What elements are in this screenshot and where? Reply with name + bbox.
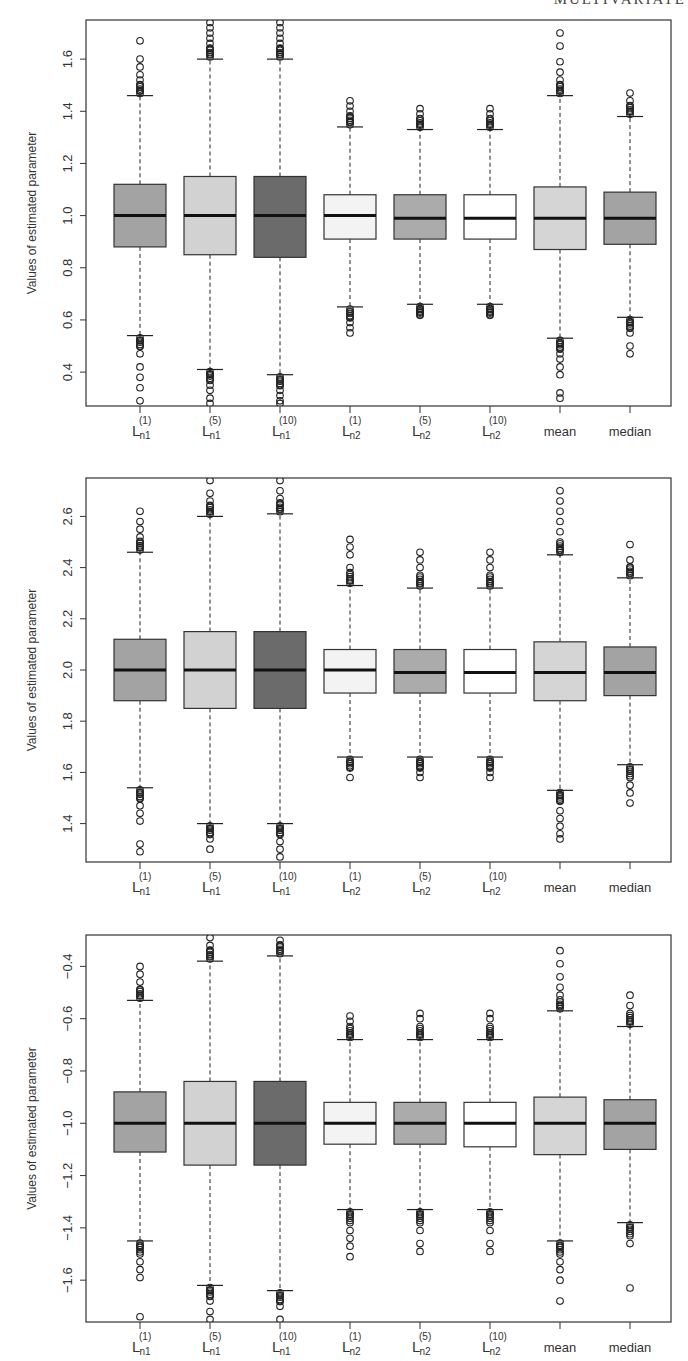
svg-text:(1): (1) bbox=[349, 871, 361, 882]
outlier-point bbox=[207, 846, 214, 853]
y-axis-label: Values of estimated parameter bbox=[25, 1047, 39, 1210]
svg-text:(5): (5) bbox=[419, 871, 431, 882]
outlier-point bbox=[557, 974, 564, 981]
outlier-point bbox=[137, 971, 144, 978]
outlier-point bbox=[137, 841, 144, 848]
outlier-point bbox=[137, 518, 144, 525]
outlier-point bbox=[627, 992, 634, 999]
outlier-point bbox=[137, 963, 144, 970]
outlier-point bbox=[627, 343, 634, 350]
outlier-point bbox=[557, 30, 564, 37]
svg-text:n1: n1 bbox=[140, 430, 152, 441]
outlier-point bbox=[417, 1248, 424, 1255]
outlier-point bbox=[277, 838, 284, 845]
outlier-point bbox=[557, 1277, 564, 1284]
y-axis: 1.41.61.82.02.22.42.6 bbox=[60, 507, 86, 832]
y-tick-label: 0.4 bbox=[60, 363, 75, 381]
outlier-point bbox=[417, 1227, 424, 1234]
y-tick-label: 1.6 bbox=[60, 763, 75, 781]
outlier-point bbox=[417, 549, 424, 556]
y-axis-label: Values of estimated parameter bbox=[25, 132, 39, 295]
svg-text:(5): (5) bbox=[209, 415, 221, 426]
y-tick-label: 2.2 bbox=[60, 610, 75, 628]
svg-text:n2: n2 bbox=[490, 1346, 502, 1357]
box-5 bbox=[394, 549, 446, 781]
y-tick-label: 1.4 bbox=[60, 815, 75, 833]
box-3 bbox=[254, 477, 306, 860]
y-tick-label: 0.6 bbox=[60, 311, 75, 329]
box-4 bbox=[324, 1013, 376, 1260]
y-tick-label: 1.2 bbox=[60, 154, 75, 172]
y-tick-label: 2.6 bbox=[60, 507, 75, 525]
y-tick-label: −1.0 bbox=[60, 1110, 75, 1136]
x-tick-label: mean bbox=[544, 880, 577, 895]
outlier-point bbox=[627, 541, 634, 548]
svg-text:(5): (5) bbox=[419, 1331, 431, 1342]
outlier-point bbox=[347, 1243, 354, 1250]
svg-text:(10): (10) bbox=[489, 415, 507, 426]
outlier-point bbox=[557, 371, 564, 378]
outlier-point bbox=[627, 1285, 634, 1292]
outlier-point bbox=[627, 1240, 634, 1247]
box-7 bbox=[534, 30, 586, 402]
outlier-point bbox=[347, 1227, 354, 1234]
outlier-point bbox=[557, 364, 564, 371]
outlier-point bbox=[347, 1253, 354, 1260]
y-axis: −1.6−1.4−1.2−1.0−0.8−0.6−0.4 bbox=[60, 954, 86, 1293]
svg-text:n2: n2 bbox=[420, 886, 432, 897]
boxplot-panel-3: −1.6−1.4−1.2−1.0−0.8−0.6−0.4Values of es… bbox=[0, 912, 688, 1361]
svg-text:(10): (10) bbox=[489, 871, 507, 882]
svg-text:(10): (10) bbox=[279, 415, 297, 426]
y-axis: 0.40.60.81.01.21.41.6 bbox=[60, 50, 86, 381]
outlier-point bbox=[557, 43, 564, 50]
svg-text:(1): (1) bbox=[349, 415, 361, 426]
svg-text:(10): (10) bbox=[279, 1331, 297, 1342]
outlier-point bbox=[557, 528, 564, 535]
svg-text:(1): (1) bbox=[349, 1331, 361, 1342]
outlier-point bbox=[137, 1313, 144, 1320]
svg-text:n2: n2 bbox=[490, 886, 502, 897]
outlier-point bbox=[137, 56, 144, 63]
boxplot-panel-2: 1.41.61.82.02.22.42.6Values of estimated… bbox=[0, 456, 688, 916]
svg-text:n1: n1 bbox=[280, 1346, 292, 1357]
outlier-point bbox=[487, 1240, 494, 1247]
box-6 bbox=[464, 549, 516, 781]
svg-text:n2: n2 bbox=[420, 430, 432, 441]
box-1 bbox=[114, 38, 166, 405]
outlier-point bbox=[137, 38, 144, 45]
x-axis: Ln1(1)Ln1(5)Ln1(10)Ln2(1)Ln2(5)Ln2(10)me… bbox=[132, 862, 651, 897]
outlier-point bbox=[347, 536, 354, 543]
x-tick-label: median bbox=[609, 1340, 652, 1355]
y-tick-label: −1.2 bbox=[60, 1163, 75, 1189]
svg-text:(1): (1) bbox=[139, 871, 151, 882]
x-tick-label: median bbox=[609, 424, 652, 439]
svg-text:(10): (10) bbox=[489, 1331, 507, 1342]
box-3 bbox=[254, 19, 306, 406]
svg-text:(10): (10) bbox=[279, 871, 297, 882]
outlier-point bbox=[627, 790, 634, 797]
outlier-point bbox=[347, 774, 354, 781]
outlier-point bbox=[557, 518, 564, 525]
box-6 bbox=[464, 105, 516, 318]
svg-text:n1: n1 bbox=[140, 1346, 152, 1357]
outlier-point bbox=[137, 374, 144, 381]
outlier-point bbox=[137, 1274, 144, 1281]
boxplot-panel-1: 0.40.60.81.01.21.41.6Values of estimated… bbox=[0, 0, 688, 460]
svg-text:n2: n2 bbox=[420, 1346, 432, 1357]
svg-text:n1: n1 bbox=[140, 886, 152, 897]
y-tick-label: −0.8 bbox=[60, 1058, 75, 1084]
outlier-point bbox=[207, 490, 214, 497]
outlier-point bbox=[137, 802, 144, 809]
outlier-point bbox=[137, 818, 144, 825]
box-1 bbox=[114, 508, 166, 855]
outlier-point bbox=[137, 979, 144, 986]
outlier-point bbox=[557, 1266, 564, 1273]
outlier-point bbox=[557, 508, 564, 515]
box-6 bbox=[464, 1010, 516, 1255]
box-5 bbox=[394, 105, 446, 318]
svg-text:(1): (1) bbox=[139, 415, 151, 426]
svg-text:(1): (1) bbox=[139, 1331, 151, 1342]
y-tick-label: 1.4 bbox=[60, 102, 75, 120]
y-tick-label: 1.6 bbox=[60, 50, 75, 68]
svg-text:n1: n1 bbox=[280, 430, 292, 441]
